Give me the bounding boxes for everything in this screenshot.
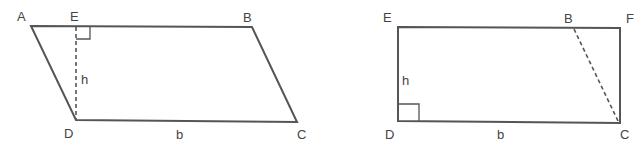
label-c-right: C — [620, 127, 629, 142]
parallelogram-outline — [31, 26, 297, 122]
diagram-canvas: A E B h D b C E B F h D b C — [0, 0, 642, 148]
right-angle-marker-d — [398, 104, 419, 121]
label-b: B — [243, 10, 252, 25]
label-h: h — [81, 72, 88, 87]
label-b-base-right: b — [497, 127, 504, 142]
label-a: A — [17, 9, 26, 24]
label-d-right: D — [385, 127, 394, 142]
right-angle-marker-e — [76, 27, 90, 39]
label-e: E — [70, 9, 79, 24]
label-b-right: B — [564, 11, 573, 26]
label-b-base: b — [176, 127, 183, 142]
label-h-right: h — [402, 73, 409, 88]
parallelogram-figure: A E B h D b C — [17, 9, 306, 142]
label-c: C — [297, 127, 306, 142]
label-e-right: E — [383, 10, 392, 25]
dashed-line-bc — [574, 29, 618, 121]
label-d: D — [64, 126, 73, 141]
rectangle-outline — [398, 27, 620, 123]
label-f: F — [626, 11, 634, 26]
rectangle-figure: E B F h D b C — [383, 10, 634, 142]
